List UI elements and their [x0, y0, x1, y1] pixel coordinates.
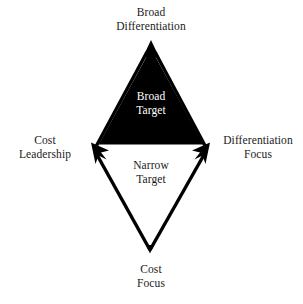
label-broad-differentiation: Broad Differentiation — [91, 5, 211, 33]
label-narrow-target: Narrow Target — [111, 158, 191, 186]
label-broad-target: Broad Target — [111, 89, 191, 117]
label-differentiation-focus: Differentiation Focus — [213, 133, 303, 161]
strategy-diamond-diagram: Broad Differentiation Cost Leadership Di… — [0, 0, 303, 304]
label-cost-focus: Cost Focus — [111, 262, 191, 290]
label-cost-leadership: Cost Leadership — [2, 133, 88, 161]
lower-v-apex-joint — [146, 245, 154, 254]
